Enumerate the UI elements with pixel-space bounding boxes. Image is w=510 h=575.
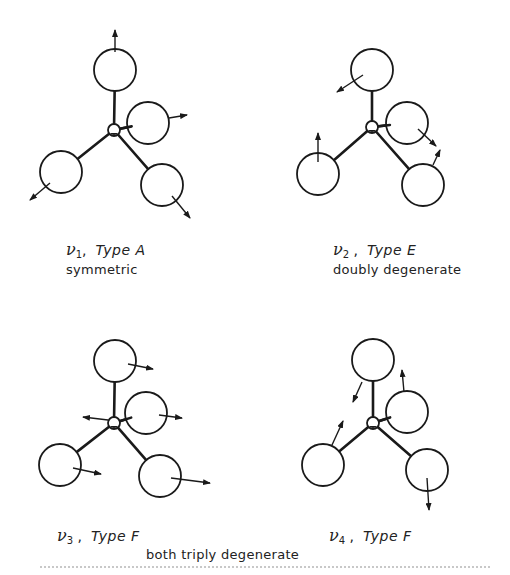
displacement-arrow-icon bbox=[353, 382, 362, 402]
molecule-nu4 bbox=[302, 339, 448, 510]
bond-lower-left bbox=[77, 426, 110, 452]
displacement-arrow-icon bbox=[332, 421, 343, 445]
nu-symbol: ν bbox=[66, 240, 76, 259]
atom-top bbox=[352, 339, 394, 381]
displacement-arrow-icon bbox=[169, 115, 187, 118]
molecule-nu1 bbox=[30, 30, 190, 218]
cutoff-text-line bbox=[40, 566, 490, 571]
type-label: Type F bbox=[91, 528, 140, 544]
comma: , bbox=[349, 242, 367, 258]
type-label: Type E bbox=[367, 242, 416, 258]
type-label: Type F bbox=[363, 528, 412, 544]
bond-lower-left bbox=[339, 426, 369, 451]
atom-top bbox=[94, 340, 136, 382]
label-nu3: ν3 , Type F bbox=[57, 526, 140, 546]
bond-front-stub bbox=[377, 125, 390, 126]
bond-top bbox=[114, 91, 115, 125]
description-nu2: doubly degenerate bbox=[333, 262, 461, 277]
molecule-nu2 bbox=[297, 49, 444, 206]
atom-right bbox=[386, 391, 428, 433]
atom-right bbox=[127, 102, 169, 144]
displacement-arrow-icon bbox=[172, 196, 190, 218]
nu-symbol: ν bbox=[333, 240, 343, 259]
atom-lower-left bbox=[302, 444, 344, 486]
atom-lower-left bbox=[39, 444, 81, 486]
comma: , bbox=[82, 242, 95, 258]
shared-caption-triply-degenerate: both triply degenerate bbox=[146, 547, 299, 562]
comma: , bbox=[345, 528, 363, 544]
label-nu2: ν2 , Type E bbox=[333, 240, 416, 260]
nu-symbol: ν bbox=[329, 526, 339, 545]
atom-right bbox=[125, 392, 167, 434]
bond-lower-left bbox=[77, 133, 110, 159]
atom-right bbox=[386, 102, 428, 144]
atom-lower-right bbox=[141, 164, 183, 206]
atom-lower-right bbox=[402, 164, 444, 206]
comma: , bbox=[73, 528, 91, 544]
label-nu4: ν4 , Type F bbox=[329, 526, 412, 546]
displacement-arrow-icon bbox=[433, 150, 440, 165]
atom-top bbox=[94, 49, 136, 91]
nu-symbol: ν bbox=[57, 526, 67, 545]
bond-top bbox=[114, 382, 115, 418]
atom-lower-right bbox=[139, 455, 181, 497]
displacement-arrow-icon bbox=[402, 370, 404, 392]
description-nu1: symmetric bbox=[66, 262, 138, 277]
central-displacement-arrow-icon bbox=[83, 417, 108, 420]
bond-lower-left bbox=[334, 130, 368, 160]
label-nu1: ν1, Type A bbox=[66, 240, 146, 260]
tetrahedral-vibration-modes-figure bbox=[0, 0, 510, 575]
molecule-nu3 bbox=[39, 340, 210, 497]
type-label: Type A bbox=[95, 242, 145, 258]
displacement-arrow-icon bbox=[30, 183, 50, 200]
atom-top bbox=[351, 49, 393, 91]
